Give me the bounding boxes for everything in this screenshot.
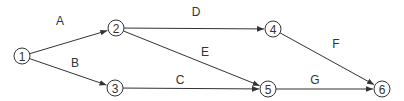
node-label: 3 [112, 82, 119, 96]
edge-d [124, 28, 264, 29]
edge-c [123, 88, 259, 89]
node-label: 1 [19, 50, 26, 64]
node-2: 2 [108, 20, 124, 36]
node-label: 4 [270, 23, 277, 37]
diagram-canvas: ABCDEFG 123456 [0, 0, 404, 101]
edge-a [30, 31, 108, 54]
node-label: 5 [265, 83, 272, 97]
node-3: 3 [107, 80, 123, 96]
edge-label-f: F [332, 37, 339, 51]
edges-layer: ABCDEFG [30, 5, 375, 89]
node-4: 4 [265, 21, 281, 37]
network-diagram: ABCDEFG 123456 [0, 0, 404, 101]
edge-f [280, 33, 374, 85]
edge-label-e: E [201, 45, 209, 59]
node-label: 6 [379, 83, 386, 97]
edge-e [123, 31, 259, 86]
edge-label-a: A [56, 14, 64, 28]
edge-label-d: D [192, 5, 201, 19]
edge-b [30, 59, 107, 85]
node-label: 2 [113, 22, 120, 36]
node-6: 6 [374, 81, 390, 97]
edge-label-g: G [310, 73, 319, 87]
edge-label-b: B [71, 56, 79, 70]
edge-label-c: C [176, 73, 185, 87]
node-5: 5 [260, 81, 276, 97]
node-1: 1 [14, 48, 30, 64]
